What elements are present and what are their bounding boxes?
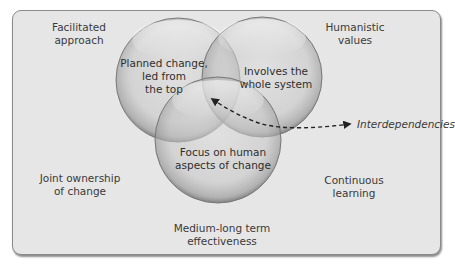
label-interdependencies: Interdependencies (357, 118, 455, 131)
circle-label-planned-change: Planned change, led from the top (120, 57, 207, 96)
circle-label-human-aspects: Focus on human aspects of change (175, 146, 271, 172)
label-humanistic-values: Humanistic values (325, 21, 384, 47)
label-joint-ownership: Joint ownership of change (40, 172, 121, 198)
label-medium-long-term: Medium-long term effectiveness (174, 222, 271, 248)
circle-label-whole-system: Involves the whole system (240, 65, 312, 91)
label-facilitated-approach: Facilitated approach (52, 21, 106, 47)
label-continuous-learning: Continuous learning (324, 174, 383, 200)
